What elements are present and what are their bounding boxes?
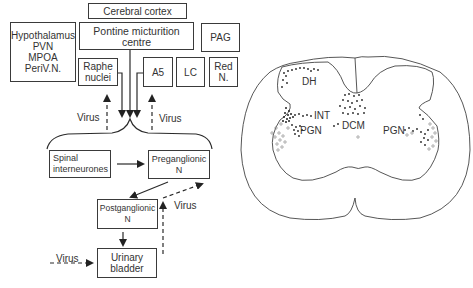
raphe-nuclei-box: Raphe nuclei (78, 58, 118, 86)
urinary-bladder-label: Urinary bladder (110, 252, 143, 274)
postganglionic-label: Postganglionic N (100, 203, 155, 225)
raphe-label: Raphe nuclei (83, 61, 112, 83)
hypothalamus-box: Hypothalamus PVN MPOA PeriV.N. (10, 22, 76, 82)
virus-label-raphe: Virus (77, 112, 100, 123)
pontine-label: Pontine micturition centre (93, 26, 179, 48)
raphe-descending-arrow (118, 73, 122, 116)
red-n-label: Red N. (214, 61, 232, 83)
preganglionic-to-postganglionic-arrow (131, 182, 168, 197)
a5-label: A5 (152, 67, 164, 78)
pgn-left-label: PGN (300, 125, 322, 136)
pgn-right-label: PGN (383, 125, 405, 136)
spinal-interneurones-label: Spinal interneurones (53, 153, 108, 175)
virus-label-postganglionic: Virus (174, 200, 197, 211)
int-label: INT (314, 110, 330, 121)
dh-label: DH (302, 76, 316, 87)
pag-box: PAG (201, 23, 240, 52)
virus-label-a5: Virus (159, 113, 182, 124)
pag-label: PAG (210, 32, 230, 43)
lc-label: LC (184, 67, 197, 78)
postganglionic-box: Postganglionic N (97, 199, 158, 229)
virus-arrow-to-preganglionic (163, 184, 202, 198)
urinary-bladder-box: Urinary bladder (97, 248, 157, 278)
pontine-micturition-centre-box: Pontine micturition centre (79, 22, 194, 50)
brace (47, 119, 212, 149)
virus-label-bladder: Virus (56, 253, 79, 264)
a5-box: A5 (143, 57, 173, 87)
dcm-label: DCM (342, 120, 365, 131)
midline (355, 58, 357, 93)
hypothalamus-label: Hypothalamus PVN MPOA PeriV.N. (11, 30, 75, 74)
red-nucleus-box: Red N. (209, 57, 238, 87)
cerebral-cortex-label: Cerebral cortex (103, 6, 171, 17)
preganglionic-box: Preganglionic N (148, 150, 210, 179)
preganglionic-label: Preganglionic N (152, 154, 207, 176)
spinal-interneurones-box: Spinal interneurones (49, 150, 111, 178)
lc-box: LC (176, 57, 205, 87)
cerebral-cortex-box: Cerebral cortex (88, 3, 187, 19)
